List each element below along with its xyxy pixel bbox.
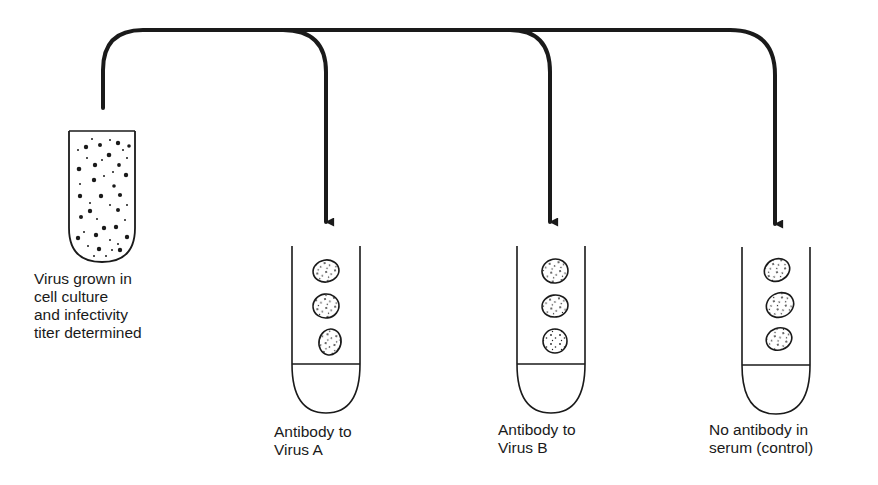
cells-icon: [761, 255, 798, 354]
cells-icon: [311, 258, 343, 357]
source-label-line: cell culture: [34, 288, 142, 306]
source-label-line: and infectivity: [34, 306, 142, 324]
control-label-line: No antibody in: [709, 421, 813, 439]
virus-a-label: Antibody to Virus A: [274, 423, 352, 459]
arrow-to-control: [730, 30, 775, 224]
control-label: No antibody in serum (control): [709, 421, 813, 457]
virus-b-label: Antibody to Virus B: [498, 421, 576, 457]
arrow-trunk: [103, 30, 730, 108]
virus-a-label-line: Antibody to: [274, 423, 352, 441]
source-label: Virus grown in cell culture and infectiv…: [34, 270, 142, 342]
arrow-to-virus-b: [510, 30, 550, 222]
branching-arrow: [103, 30, 775, 224]
test-tube-control-icon: [742, 247, 810, 414]
virus-b-label-line: Antibody to: [498, 421, 576, 439]
arrow-to-virus-a: [283, 30, 326, 222]
source-test-tube-icon: [69, 131, 135, 262]
virus-b-label-line: Virus B: [498, 439, 576, 457]
source-label-line: Virus grown in: [34, 270, 142, 288]
virus-particles-icon: [76, 138, 131, 257]
test-tube-virus-b-icon: [517, 246, 585, 413]
test-tube-virus-a-icon: [292, 246, 360, 413]
source-label-line: titer determined: [34, 324, 142, 342]
cells-icon: [540, 257, 570, 353]
control-label-line: serum (control): [709, 439, 813, 457]
diagram-canvas: [0, 0, 878, 485]
virus-a-label-line: Virus A: [274, 441, 352, 459]
